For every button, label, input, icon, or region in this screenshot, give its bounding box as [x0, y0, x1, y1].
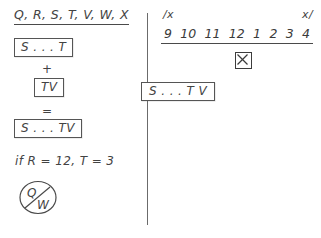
equals-operator: = — [42, 105, 52, 117]
straddling-result-box: S . . . T V — [141, 82, 215, 101]
number-line-tick: 11 — [205, 26, 221, 41]
circled-qw-glyph: Q W — [18, 180, 58, 215]
number-line-tick: 9 — [164, 26, 172, 41]
plus-operator: + — [42, 63, 52, 75]
equation-operand-1-box: S . . . T — [14, 38, 73, 57]
right-panel: /x x/ 9 10 11 12 1 2 3 4 — [147, 0, 321, 238]
number-line-rule — [161, 43, 313, 44]
number-line-tick: 2 — [269, 26, 277, 41]
glyph-letter-bottom: W — [37, 198, 50, 212]
equation-operand-2-box: TV — [34, 78, 64, 97]
number-line-tick: 12 — [229, 26, 245, 41]
tick-label-right: x/ — [302, 9, 313, 20]
condition-text: if R = 12, T = 3 — [15, 155, 114, 167]
boxed-x-marker — [235, 52, 252, 69]
page-title: Q, R, S, T, V, W, X — [14, 9, 129, 25]
number-line-tick: 10 — [180, 26, 196, 41]
handwritten-note-canvas: Q, R, S, T, V, W, X S . . . T + TV = S .… — [0, 0, 321, 238]
circled-qw-svg: Q W — [18, 180, 58, 215]
number-line-labels: 9 10 11 12 1 2 3 4 — [161, 26, 313, 41]
left-panel: Q, R, S, T, V, W, X S . . . T + TV = S .… — [0, 0, 147, 238]
number-line-tick: 4 — [302, 26, 310, 41]
equation-result-box: S . . . TV — [14, 119, 82, 138]
glyph-letter-top: Q — [27, 186, 36, 200]
number-line-tick: 3 — [286, 26, 294, 41]
tick-label-left: /x — [163, 9, 174, 20]
number-line-tick: 1 — [253, 26, 261, 41]
number-line: 9 10 11 12 1 2 3 4 — [161, 26, 313, 44]
x-icon — [236, 53, 249, 66]
